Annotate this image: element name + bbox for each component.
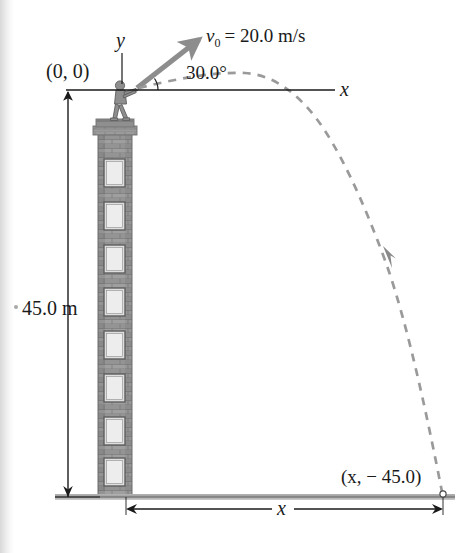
trajectory-curve <box>139 73 443 497</box>
ground-line <box>55 494 455 500</box>
brick-tower <box>93 119 137 497</box>
velocity-subscript: 0 <box>214 36 220 50</box>
launch-angle-label: 30.0° <box>186 63 227 82</box>
origin-label: (0, 0) <box>46 61 89 81</box>
y-axis-label: y <box>116 30 125 50</box>
height-dimension-arrow <box>55 92 100 497</box>
landing-point-marker <box>440 491 446 497</box>
tower-parapet <box>93 119 137 135</box>
velocity-label: v0= 20.0 m/s <box>206 26 305 49</box>
horizontal-range-label: x <box>277 498 286 518</box>
landing-point-label: (x, − 45.0) <box>341 467 421 486</box>
x-axis-label: x <box>340 79 349 99</box>
person-throwing <box>111 81 138 121</box>
tower-height-label: 45.0 m <box>22 298 78 318</box>
velocity-value: = 20.0 m/s <box>224 25 305 46</box>
